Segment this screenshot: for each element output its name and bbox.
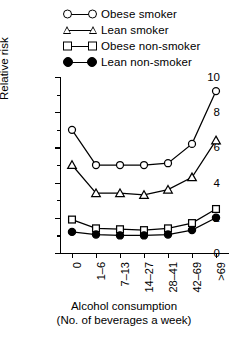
- data-point: [116, 232, 123, 239]
- legend-label: Lean smoker: [101, 24, 169, 36]
- series-line: [72, 91, 216, 165]
- y-axis-title: Relative risk: [0, 100, 14, 112]
- data-point: [117, 162, 124, 169]
- x-tick: [120, 253, 121, 258]
- x-axis-title: Alcohol consumption (No. of beverages a …: [0, 300, 248, 327]
- x-tick: [96, 253, 97, 258]
- data-point: [213, 88, 220, 95]
- data-point: [213, 206, 220, 213]
- data-point: [68, 228, 75, 235]
- data-point: [212, 214, 219, 221]
- data-point: [212, 136, 221, 144]
- data-point: [68, 161, 77, 169]
- legend-label: Obese smoker: [101, 8, 177, 20]
- x-tick: [192, 253, 193, 258]
- open-triangle-marker-icon: [62, 22, 98, 38]
- open-square-marker-icon: [62, 38, 98, 54]
- relative-risk-line-chart: Obese smoker Lean smoker Obese non-smoke…: [0, 0, 248, 337]
- x-tick-label: 42–69: [191, 262, 203, 293]
- data-point: [93, 162, 100, 169]
- data-point: [140, 232, 147, 239]
- x-tick: [72, 253, 73, 258]
- y-axis-title-text: Relative risk: [0, 84, 10, 100]
- series-lines: [60, 77, 228, 253]
- plot-area: 0246810 01–67–1314–2728–4142–69>69: [60, 77, 228, 253]
- data-point: [165, 160, 172, 167]
- x-tick: [216, 253, 217, 258]
- x-axis-title-line1: Alcohol consumption: [0, 300, 248, 314]
- x-tick-label: >69: [215, 262, 227, 281]
- legend-item-obese-smoker: Obese smoker: [62, 6, 200, 22]
- x-tick-label: 7–13: [119, 262, 131, 286]
- data-point: [188, 227, 195, 234]
- legend-item-lean-smoker: Lean smoker: [62, 22, 200, 38]
- x-tick-label: 28–41: [167, 262, 179, 293]
- legend-label: Obese non-smoker: [101, 40, 200, 52]
- data-point: [69, 216, 76, 223]
- data-point: [92, 231, 99, 238]
- data-point: [189, 220, 196, 227]
- data-point: [189, 140, 196, 147]
- data-point: [69, 126, 76, 133]
- x-tick-label: 14–27: [143, 262, 155, 293]
- data-point: [188, 173, 197, 181]
- x-tick-label: 0: [71, 262, 83, 268]
- x-axis-title-line2: (No. of beverages a week): [0, 314, 248, 328]
- data-point: [164, 185, 173, 193]
- filled-circle-marker-icon: [62, 54, 98, 70]
- x-tick: [168, 253, 169, 258]
- data-point: [141, 162, 148, 169]
- chart-legend: Obese smoker Lean smoker Obese non-smoke…: [62, 6, 200, 70]
- y-tick: [55, 253, 60, 254]
- x-tick: [144, 253, 145, 258]
- x-tick-label: 1–6: [95, 262, 107, 280]
- open-circle-marker-icon: [62, 6, 98, 22]
- legend-item-lean-non-smoker: Lean non-smoker: [62, 54, 200, 70]
- legend-label: Lean non-smoker: [101, 56, 192, 68]
- legend-item-obese-non-smoker: Obese non-smoker: [62, 38, 200, 54]
- data-point: [164, 231, 171, 238]
